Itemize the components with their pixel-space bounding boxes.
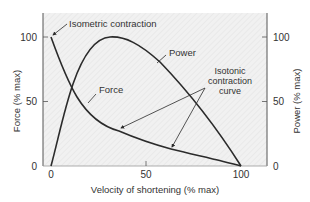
isotonic-label-line1: Isotonic	[214, 66, 246, 76]
y-tick-label-0: 0	[31, 161, 37, 172]
isotonic-label-line2: contraction	[208, 76, 252, 86]
y2-tick-label-0: 0	[273, 161, 279, 172]
power-label: Power	[169, 47, 196, 58]
x-tick-label-0: 0	[48, 169, 54, 180]
force-velocity-power-chart: 0 50 100 0 50 100 0 50 100 Velocity of s…	[0, 0, 310, 202]
y2-tick-label-50: 50	[273, 96, 285, 107]
y-tick-label-100: 100	[20, 32, 37, 43]
force-label: Force	[99, 84, 123, 95]
y2-axis-title: Power (% max)	[291, 69, 302, 134]
chart-svg: 0 50 100 0 50 100 0 50 100 Velocity of s…	[0, 0, 310, 202]
x-tick-label-50: 50	[140, 169, 152, 180]
x-tick-label-100: 100	[233, 169, 250, 180]
isometric-contraction-label: Isometric contraction	[69, 18, 157, 29]
isotonic-label-line3: curve	[219, 86, 241, 96]
x-axis-title: Velocity of shortening (% max)	[91, 184, 219, 195]
y-axis-title: Force (% max)	[11, 70, 22, 132]
y-tick-label-50: 50	[26, 96, 38, 107]
y2-tick-label-100: 100	[273, 32, 290, 43]
